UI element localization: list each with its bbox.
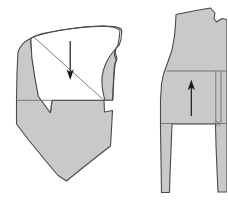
pattern-svg: Garment pattern draft with two pieces bbox=[0, 0, 227, 201]
left-pattern-piece bbox=[17, 26, 122, 181]
right-piece-gray-body bbox=[161, 8, 228, 193]
right-pattern-piece bbox=[161, 8, 228, 193]
pattern-figure: Garment pattern draft with two pieces bbox=[0, 0, 227, 201]
